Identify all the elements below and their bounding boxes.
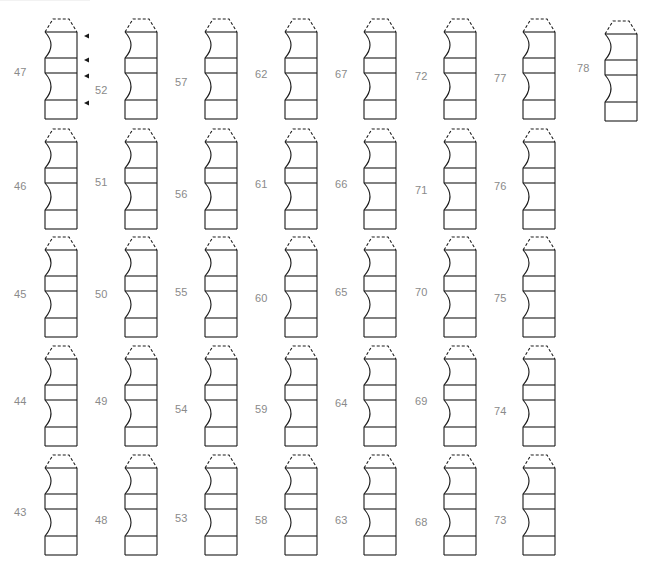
profile-figure-53 — [204, 454, 238, 561]
profile-drawing-icon — [284, 454, 332, 561]
figure-number-label: 78 — [577, 62, 590, 74]
profile-drawing-icon — [522, 18, 570, 138]
figure-number-label: 59 — [255, 403, 268, 415]
profile-drawing-icon — [363, 454, 411, 561]
figure-number-label: 48 — [95, 514, 108, 526]
profile-figure-61 — [284, 128, 318, 248]
figure-number-label: 58 — [255, 514, 268, 526]
profile-figure-64 — [363, 345, 397, 465]
profile-figure-63 — [363, 454, 397, 561]
profile-figure-70 — [443, 236, 477, 356]
profile-drawing-icon — [443, 18, 491, 138]
figure-number-label: 69 — [415, 395, 428, 407]
profile-drawing-icon — [522, 128, 570, 248]
profile-drawing-icon — [604, 20, 652, 140]
figure-number-label: 77 — [494, 72, 507, 84]
profile-figure-74 — [522, 345, 556, 465]
figure-number-label: 68 — [415, 516, 428, 528]
figure-number-label: 66 — [335, 178, 348, 190]
profile-drawing-icon — [44, 236, 92, 356]
figure-number-label: 60 — [255, 292, 268, 304]
profile-drawing-icon — [443, 128, 491, 248]
profile-figure-50 — [124, 236, 158, 356]
profile-drawing-icon — [124, 345, 172, 465]
figure-number-label: 44 — [14, 395, 27, 407]
profile-figure-45 — [44, 236, 78, 356]
profile-figure-69 — [443, 345, 477, 465]
figure-number-label: 62 — [255, 68, 268, 80]
profile-figure-59 — [284, 345, 318, 465]
profile-figure-49 — [124, 345, 158, 465]
profile-figure-54 — [204, 345, 238, 465]
figure-number-label: 46 — [14, 180, 27, 192]
profile-drawing-icon — [124, 236, 172, 356]
profile-drawing-icon — [284, 345, 332, 465]
profile-drawing-icon — [363, 128, 411, 248]
arrow-marker-icon — [84, 74, 89, 79]
figure-number-label: 76 — [494, 180, 507, 192]
profile-drawing-icon — [284, 128, 332, 248]
profile-drawing-icon — [522, 454, 570, 561]
profile-drawing-icon — [363, 18, 411, 138]
figure-number-label: 55 — [175, 286, 188, 298]
figure-number-label: 52 — [95, 84, 108, 96]
profile-figure-47 — [44, 18, 78, 138]
profile-figure-62 — [284, 18, 318, 138]
figure-number-label: 63 — [335, 514, 348, 526]
profile-drawing-icon — [44, 345, 92, 465]
figure-number-label: 51 — [95, 176, 108, 188]
profile-figure-68 — [443, 454, 477, 561]
figure-number-label: 72 — [415, 70, 428, 82]
profile-drawing-icon — [204, 454, 252, 561]
profile-drawing-icon — [443, 454, 491, 561]
figure-number-label: 45 — [14, 288, 27, 300]
figure-number-label: 65 — [335, 286, 348, 298]
figure-number-label: 61 — [255, 178, 268, 190]
figure-number-label: 67 — [335, 68, 348, 80]
profile-figure-57 — [204, 18, 238, 138]
figure-number-label: 64 — [335, 397, 348, 409]
profile-figure-66 — [363, 128, 397, 248]
profile-drawing-icon — [363, 236, 411, 356]
profile-figure-75 — [522, 236, 556, 356]
profile-drawing-icon — [522, 236, 570, 356]
arrow-marker-icon — [84, 58, 89, 63]
figure-number-label: 53 — [175, 512, 188, 524]
profile-drawing-icon — [284, 236, 332, 356]
profile-figure-55 — [204, 236, 238, 356]
figure-number-label: 49 — [95, 395, 108, 407]
profile-figure-43 — [44, 454, 78, 561]
profile-drawing-icon — [204, 236, 252, 356]
profile-drawing-icon — [284, 18, 332, 138]
profile-drawing-icon — [522, 345, 570, 465]
profile-drawing-icon — [44, 128, 92, 248]
figure-number-label: 71 — [415, 184, 428, 196]
profile-drawing-icon — [204, 128, 252, 248]
profile-figure-48 — [124, 454, 158, 561]
profile-figure-52 — [124, 18, 158, 138]
figure-number-label: 74 — [494, 405, 507, 417]
profile-drawing-icon — [124, 454, 172, 561]
figure-number-label: 56 — [175, 188, 188, 200]
profile-figure-46 — [44, 128, 78, 248]
profile-drawing-icon — [44, 18, 92, 138]
profile-drawing-icon — [443, 345, 491, 465]
profile-drawing-icon — [363, 345, 411, 465]
profile-drawing-icon — [443, 236, 491, 356]
arrow-marker-icon — [84, 34, 89, 39]
figure-number-label: 43 — [14, 506, 27, 518]
profile-drawing-icon — [204, 18, 252, 138]
profile-figure-67 — [363, 18, 397, 138]
profile-figure-71 — [443, 128, 477, 248]
profile-figure-65 — [363, 236, 397, 356]
figure-number-label: 47 — [14, 66, 27, 78]
figure-number-label: 70 — [415, 286, 428, 298]
profile-figure-72 — [443, 18, 477, 138]
profile-figure-51 — [124, 128, 158, 248]
figure-number-label: 50 — [95, 288, 108, 300]
figure-number-label: 57 — [175, 76, 188, 88]
profile-figure-60 — [284, 236, 318, 356]
figure-number-label: 75 — [494, 292, 507, 304]
profile-figure-56 — [204, 128, 238, 248]
profile-drawing-icon — [44, 454, 92, 561]
